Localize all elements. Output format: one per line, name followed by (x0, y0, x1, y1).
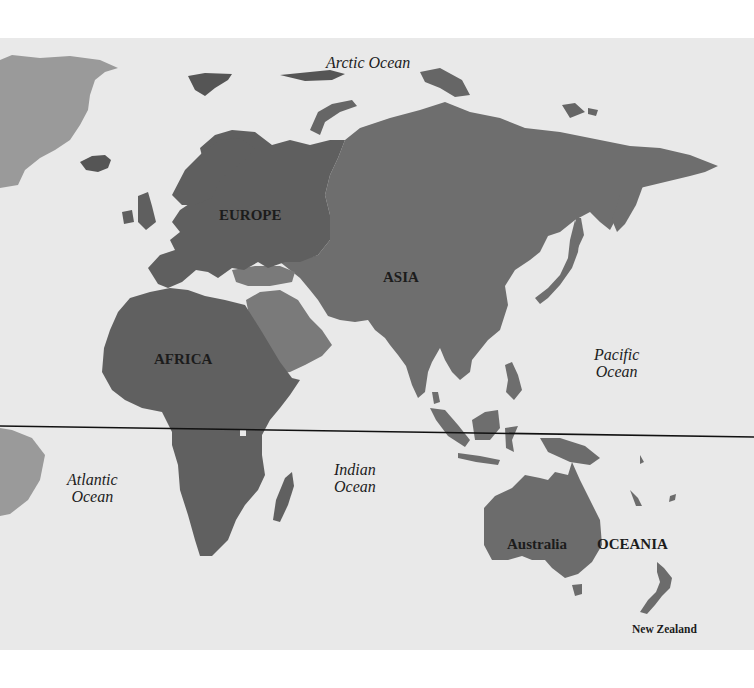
atlantic-ocean-line2: Ocean (67, 489, 118, 506)
iceland-landmass (80, 155, 111, 172)
asia-landmass (280, 102, 718, 398)
madagascar-island (273, 472, 294, 522)
south-america-landmass (0, 428, 45, 516)
borneo-island (472, 410, 500, 440)
atlantic-ocean-label: Atlantic Ocean (67, 472, 118, 506)
sulawesi-island (505, 426, 518, 452)
atlantic-ocean-line1: Atlantic (67, 472, 118, 489)
philippines (505, 362, 522, 400)
europe-label: EUROPE (219, 208, 282, 224)
pacific-ocean-line1: Pacific (594, 347, 639, 364)
pacific-islands (630, 455, 676, 506)
indian-ocean-line2: Ocean (334, 479, 376, 496)
new-zealand-landmass (640, 562, 672, 614)
world-map (0, 0, 754, 688)
new-guinea-island (540, 438, 600, 465)
british-isles (122, 192, 156, 230)
equator-line (0, 426, 754, 437)
tasmania-island (572, 584, 582, 596)
java-island (458, 453, 500, 465)
pacific-ocean-line2: Ocean (594, 364, 639, 381)
svalbard-landmass (188, 73, 232, 96)
pacific-ocean-label: Pacific Ocean (594, 347, 639, 381)
novaya-zemlya-landmass (310, 100, 357, 135)
arctic-ocean-label: Arctic Ocean (326, 55, 410, 72)
australia-label: Australia (507, 537, 567, 553)
new-siberian-islands (562, 103, 598, 118)
lake-victoria (240, 430, 246, 436)
asia-label: ASIA (383, 270, 419, 286)
sumatra-island (430, 408, 470, 447)
new-zealand-label: New Zealand (632, 623, 697, 635)
sri-lanka (432, 392, 440, 404)
africa-label: AFRICA (154, 352, 212, 368)
indian-ocean-line1: Indian (334, 462, 376, 479)
oceania-label: OCEANIA (597, 537, 668, 553)
indian-ocean-label: Indian Ocean (334, 462, 376, 496)
severnaya-zemlya (420, 68, 470, 97)
australia-landmass (484, 462, 602, 578)
